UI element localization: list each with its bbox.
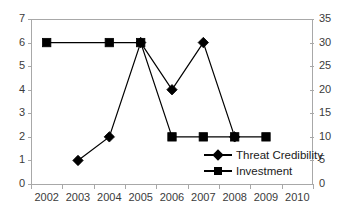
square-marker-icon <box>204 164 232 178</box>
legend-label: Investment <box>232 165 292 177</box>
chart-legend: Threat Credibility Investment <box>204 147 334 179</box>
x-tick <box>94 185 95 189</box>
legend-item-threat-credibility: Threat Credibility <box>204 147 334 163</box>
legend-item-investment: Investment <box>204 163 334 179</box>
data-point-square <box>199 133 207 141</box>
line-chart: 0123456705101520253035200220032004200520… <box>0 0 357 212</box>
diamond-marker-icon <box>204 148 232 162</box>
right-tick-label: 30 <box>319 36 343 48</box>
x-tick <box>219 185 220 189</box>
series-line <box>78 43 235 161</box>
x-tick <box>282 185 283 189</box>
right-tick-label: 25 <box>319 59 343 71</box>
data-point-square <box>42 38 50 46</box>
left-tick-label: 2 <box>3 130 25 142</box>
right-tick-label: 10 <box>319 130 343 142</box>
x-tick <box>188 185 189 189</box>
left-tick-label: 0 <box>3 177 25 189</box>
left-tick-label: 4 <box>3 83 25 95</box>
data-point-square <box>168 133 176 141</box>
x-tick <box>250 185 251 189</box>
left-tick-label: 1 <box>3 153 25 165</box>
data-point-diamond <box>198 37 208 47</box>
data-point-diamond <box>104 132 114 142</box>
data-point-square <box>136 38 144 46</box>
right-tick-label: 15 <box>319 106 343 118</box>
x-tick <box>313 185 314 189</box>
x-tick <box>31 185 32 189</box>
data-point-diamond <box>167 85 177 95</box>
series-line <box>47 43 266 137</box>
x-tick-label: 2010 <box>277 191 317 203</box>
left-tick-label: 3 <box>3 106 25 118</box>
data-point-square <box>230 133 238 141</box>
data-point-square <box>105 38 113 46</box>
left-tick-label: 7 <box>3 12 25 24</box>
data-point-diamond <box>73 155 83 165</box>
left-tick-label: 5 <box>3 59 25 71</box>
x-tick <box>125 185 126 189</box>
x-tick <box>156 185 157 189</box>
x-tick <box>62 185 63 189</box>
left-tick-label: 6 <box>3 36 25 48</box>
legend-label: Threat Credibility <box>232 149 323 161</box>
data-point-square <box>262 133 270 141</box>
right-tick-label: 20 <box>319 83 343 95</box>
right-tick-label: 35 <box>319 12 343 24</box>
